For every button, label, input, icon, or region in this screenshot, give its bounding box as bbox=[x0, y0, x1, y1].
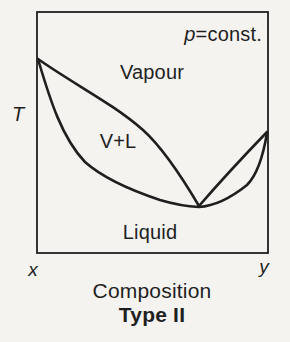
pressure-label: p=const. bbox=[183, 23, 262, 45]
x-axis-right-end-label: y bbox=[257, 256, 270, 277]
pressure-symbol-italic: p bbox=[183, 23, 195, 45]
x-axis-left-end-label: x bbox=[27, 259, 39, 280]
region-label-v-plus-l: V+L bbox=[100, 130, 137, 152]
figure-caption: Type II bbox=[119, 303, 185, 326]
x-axis-label: Composition bbox=[93, 279, 212, 302]
phase-diagram-figure: p=const. Vapour T V+L Liquid x y Composi… bbox=[0, 0, 290, 342]
y-axis-label: T bbox=[12, 103, 26, 125]
phase-diagram-canvas: p=const. Vapour T V+L Liquid x y Composi… bbox=[0, 0, 290, 342]
pressure-suffix: =const. bbox=[196, 23, 262, 45]
plot-frame bbox=[37, 12, 268, 253]
region-label-liquid: Liquid bbox=[123, 221, 178, 243]
region-label-vapour: Vapour bbox=[120, 61, 184, 83]
